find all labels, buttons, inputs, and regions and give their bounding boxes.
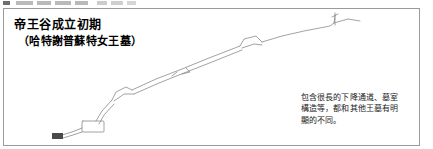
final-descent-upper-wall [96,100,112,121]
descending-corridor-upper-wall [132,46,240,90]
burial-chamber-approach-passage [62,128,82,135]
heading-text-fragment [75,1,88,5]
cropped-heading-strip [0,0,433,7]
corridor-step-marker [172,72,177,76]
burial-chamber-outline [82,121,104,132]
descending-corridor-lower-wall [134,50,242,94]
page-title: 帝王谷成立初期 [14,16,142,34]
upper-chamber-floor [242,44,262,48]
heading-bullet-marker [3,1,10,5]
annotation-line-1: 包含很長的下降通道、墓室 [301,92,419,103]
heading-text-fragment [97,1,107,5]
annotation-note: 包含很長的下降通道、墓室 構造等，都和其他王墓有明 顯的不同。 [301,92,419,126]
entrance-spur-corridor [334,19,360,23]
annotation-line-2: 構造等，都和其他王墓有明 [301,103,419,114]
heading-text-fragment [55,1,71,5]
heading-text-fragment [16,1,33,5]
heading-text-fragment [111,1,123,5]
tomb-entrance-marker [332,13,338,25]
burial-chamber-approach-floor [63,132,82,138]
lower-chamber-outline [112,87,132,100]
figure-panel: 帝王谷成立初期 （哈特謝普蘇特女王墓） [3,8,420,146]
figure-title-block: 帝王谷成立初期 （哈特謝普蘇特女王墓） [14,16,142,51]
final-descent-lower-wall [99,104,114,124]
heading-text-fragment [37,1,51,5]
annotation-line-3: 顯的不同。 [301,115,419,126]
sarcophagus-marker [52,133,63,139]
upper-chamber-outline [240,36,262,46]
corridor-upper-wall [262,15,335,42]
heading-text-fragment [127,1,136,5]
figure-canvas: 帝王谷成立初期 （哈特謝普蘇特女王墓） [0,0,433,149]
page-subtitle: （哈特謝普蘇特女王墓） [14,34,142,51]
corridor-niche-marker [182,68,190,74]
lower-chamber-floor [114,94,134,101]
